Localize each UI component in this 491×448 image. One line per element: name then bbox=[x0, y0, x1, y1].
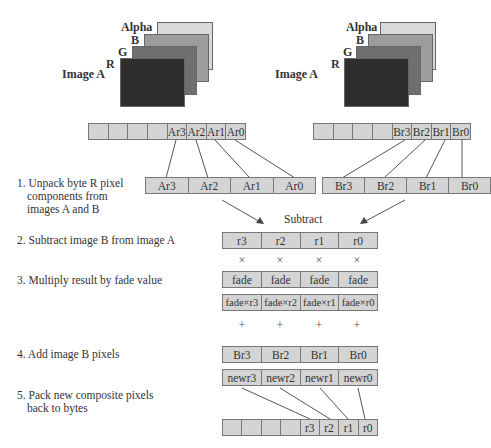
b-pixel-cell: Br3 bbox=[223, 347, 262, 362]
byte-cell-br1: Br1 bbox=[432, 124, 452, 139]
byte-cell bbox=[334, 124, 354, 139]
byte-cell-ar1: Ar1 bbox=[207, 124, 227, 139]
byte-cell bbox=[109, 124, 129, 139]
packed-output-bytes: r3 r2 r1 r0 bbox=[222, 419, 378, 436]
byte-cell bbox=[281, 420, 300, 435]
byte-cell-br3: Br3 bbox=[393, 124, 413, 139]
step-2-line-1: 2. Subtract image B from image A bbox=[17, 234, 175, 247]
step-1-line-1: 1. Unpack byte R pixel bbox=[17, 177, 123, 190]
unpacked-cell: Br2 bbox=[365, 178, 407, 193]
plus-symbol: + bbox=[232, 318, 252, 333]
byte-cell bbox=[373, 124, 393, 139]
b-pixel-cell: Br2 bbox=[262, 347, 301, 362]
result-cell: r2 bbox=[262, 233, 301, 248]
byte-cell bbox=[128, 124, 148, 139]
fade-cell: fade bbox=[339, 272, 377, 287]
b-pixel-cell: Br0 bbox=[339, 347, 377, 362]
new-cell: newr0 bbox=[339, 370, 377, 385]
byte-cell-r1: r1 bbox=[339, 420, 358, 435]
unpacked-cell: Ar1 bbox=[231, 178, 274, 193]
new-cell: newr1 bbox=[301, 370, 340, 385]
fade-cell: fade bbox=[262, 272, 301, 287]
new-cell: newr3 bbox=[223, 370, 262, 385]
step-5-line-2: back to bytes bbox=[17, 402, 153, 415]
step-2-label: 2. Subtract image B from image A bbox=[17, 234, 175, 247]
new-cell: newr2 bbox=[262, 370, 301, 385]
plus-symbol: + bbox=[270, 318, 290, 333]
packed-bytes-image-b: Br3 Br2 Br1 Br0 bbox=[313, 123, 471, 140]
byte-cell-br0: Br0 bbox=[451, 124, 470, 139]
unpacked-cell: Ar2 bbox=[189, 178, 232, 193]
plus-symbol: + bbox=[309, 318, 329, 333]
step-4-line-1: 4. Add image B pixels bbox=[17, 348, 120, 361]
unpacked-cell: Ar0 bbox=[274, 178, 316, 193]
multiply-symbol: × bbox=[347, 253, 367, 268]
subtract-result-row: r3 r2 r1 r0 bbox=[222, 232, 378, 249]
multiply-symbol: × bbox=[309, 253, 329, 268]
packed-bytes-image-a: Ar3 Ar2 Ar1 Ar0 bbox=[88, 123, 246, 140]
byte-cell bbox=[262, 420, 281, 435]
byte-cell bbox=[89, 124, 109, 139]
byte-cell-ar3: Ar3 bbox=[168, 124, 188, 139]
product-cell: fade×r1 bbox=[301, 295, 340, 310]
unpacked-cell: Br0 bbox=[449, 178, 490, 193]
product-cell: fade×r3 bbox=[223, 295, 262, 310]
unpacked-image-a: Ar3 Ar2 Ar1 Ar0 bbox=[145, 177, 316, 194]
unpacked-cell: Br1 bbox=[407, 178, 449, 193]
step-1-line-3: images A and B bbox=[17, 203, 123, 216]
unpacked-image-b: Br3 Br2 Br1 Br0 bbox=[322, 177, 491, 194]
byte-cell-r2: r2 bbox=[320, 420, 339, 435]
image-b-pixels-row: Br3 Br2 Br1 Br0 bbox=[222, 346, 378, 363]
step-1-line-2: components from bbox=[17, 190, 123, 203]
multiply-symbol: × bbox=[270, 253, 290, 268]
byte-cell-br2: Br2 bbox=[412, 124, 432, 139]
product-cell: fade×r0 bbox=[339, 295, 377, 310]
fade-cell: fade bbox=[223, 272, 262, 287]
byte-cell bbox=[242, 420, 261, 435]
step-3-line-1: 3. Multiply result by fade value bbox=[17, 274, 162, 287]
byte-cell-ar2: Ar2 bbox=[187, 124, 207, 139]
plus-symbol: + bbox=[347, 318, 367, 333]
new-composite-row: newr3 newr2 newr1 newr0 bbox=[222, 369, 378, 386]
fade-row: fade fade fade fade bbox=[222, 271, 378, 288]
result-cell: r3 bbox=[223, 233, 262, 248]
byte-cell bbox=[223, 420, 242, 435]
unpacked-cell: Ar3 bbox=[146, 178, 189, 193]
b-pixel-cell: Br1 bbox=[301, 347, 340, 362]
product-cell: fade×r2 bbox=[262, 295, 301, 310]
result-cell: r1 bbox=[301, 233, 340, 248]
byte-cell-r0: r0 bbox=[359, 420, 377, 435]
unpacked-cell: Br3 bbox=[323, 178, 365, 193]
fade-cell: fade bbox=[301, 272, 340, 287]
product-row: fade×r3 fade×r2 fade×r1 fade×r0 bbox=[222, 294, 378, 311]
byte-cell bbox=[148, 124, 168, 139]
step-4-label: 4. Add image B pixels bbox=[17, 348, 120, 361]
byte-cell bbox=[314, 124, 334, 139]
subtract-label: Subtract bbox=[284, 213, 322, 226]
step-5-label: 5. Pack new composite pixels back to byt… bbox=[17, 389, 153, 415]
byte-cell bbox=[353, 124, 373, 139]
step-1-label: 1. Unpack byte R pixel components from i… bbox=[17, 177, 123, 216]
byte-cell-ar0: Ar0 bbox=[226, 124, 245, 139]
multiply-symbol: × bbox=[232, 253, 252, 268]
step-5-line-1: 5. Pack new composite pixels bbox=[17, 389, 153, 402]
result-cell: r0 bbox=[339, 233, 377, 248]
byte-cell-r3: r3 bbox=[301, 420, 320, 435]
step-3-label: 3. Multiply result by fade value bbox=[17, 274, 162, 287]
